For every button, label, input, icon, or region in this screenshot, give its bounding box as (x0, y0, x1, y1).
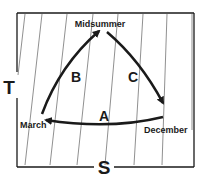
isopycnal-lines (18, 14, 192, 165)
point-label-december: December (144, 125, 188, 135)
point-label-midsummer: Midsummer (75, 19, 126, 29)
axis-label-t: T (3, 77, 15, 98)
arrow-label-c: C (128, 69, 138, 85)
ts-diagram: T S Midsummer March December A B C (0, 0, 203, 181)
axis-label-s: S (98, 157, 111, 178)
plot-frame (17, 13, 194, 167)
arrow-label-a: A (99, 108, 109, 124)
arrow-label-b: B (71, 69, 81, 85)
point-label-march: March (20, 120, 47, 130)
